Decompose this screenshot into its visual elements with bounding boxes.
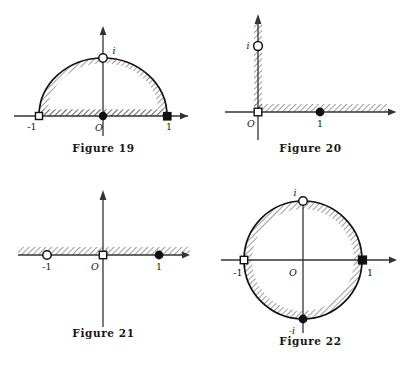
figure-20-label-i: i: [246, 40, 249, 51]
figure-19-marker-filled-square-1: [164, 113, 172, 121]
figure-22-label-minus1: -1: [233, 267, 242, 278]
figure-19-marker-filled-circle-origin: [99, 112, 107, 120]
figure-22-marker-open-square-minus1: [240, 256, 247, 263]
figure-20-caption: Figure 20: [207, 142, 414, 154]
figure-21-label-origin: O: [91, 261, 99, 272]
figure-19-label-i: i: [112, 45, 115, 56]
figure-22-label-origin: O: [289, 267, 297, 278]
figure-20-marker-open-circle-i: [254, 42, 263, 51]
figure-19-label-origin: O: [95, 122, 103, 133]
figure-22-label-1: 1: [367, 267, 373, 278]
figure-21-marker-open-square-origin: [99, 251, 106, 258]
figure-19-caption: Figure 19: [0, 142, 207, 154]
figure-20-marker-open-square-origin: [254, 108, 262, 116]
figure-21-marker-filled-circle-1: [155, 251, 164, 260]
figure-22-marker-filled-square-1: [359, 256, 367, 264]
figure-22-caption: Figure 22: [207, 335, 414, 347]
figure-19-label-minus1: -1: [27, 121, 36, 132]
figure-21-cell: -1 O 1 Figure 21: [0, 185, 207, 375]
figure-22-cell: -1 O 1 i -i Figure 22: [207, 185, 414, 375]
figure-21-label-1: 1: [156, 261, 162, 272]
figure-21-label-minus1: -1: [42, 261, 51, 272]
figure-20-canvas: i O 1: [207, 0, 414, 185]
figure-19-label-1: 1: [166, 121, 172, 132]
figure-grid: -1 O 1 i Figure 19: [0, 0, 414, 375]
figure-22-marker-open-circle-i: [299, 197, 308, 206]
figure-19-cell: -1 O 1 i Figure 19: [0, 0, 207, 185]
figure-20-imaginary-axis-arrow: [255, 14, 262, 24]
figure-20-label-1: 1: [317, 118, 323, 129]
figure-20-label-origin: O: [247, 118, 255, 129]
figure-20-cell: i O 1 Figure 20: [207, 0, 414, 185]
figure-20-marker-filled-circle-1: [316, 108, 325, 117]
figure-21-caption: Figure 21: [0, 327, 207, 339]
figure-21-canvas: -1 O 1: [0, 185, 207, 375]
figure-20-real-axis-arrow: [388, 109, 396, 116]
figure-21-imaginary-axis-arrow: [100, 190, 107, 200]
figure-19-marker-open-square-minus1: [36, 113, 43, 120]
figure-22-label-i: i: [293, 187, 296, 198]
figure-19-marker-open-circle-i: [99, 54, 107, 62]
figure-19-canvas: -1 O 1 i: [0, 0, 207, 185]
figure-22-marker-filled-circle-minus-i: [299, 315, 308, 324]
figure-21-marker-open-circle-minus1: [43, 251, 51, 259]
